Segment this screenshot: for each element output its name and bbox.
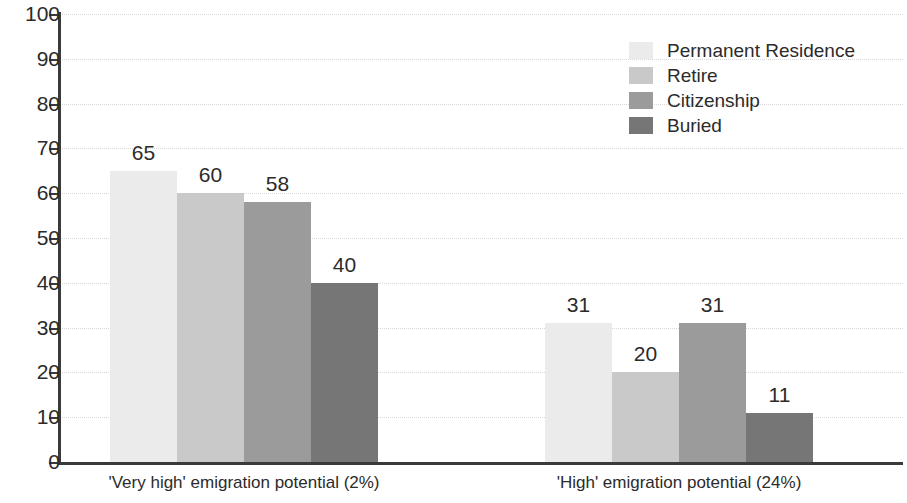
bar-value-label: 11 — [746, 384, 813, 405]
legend-swatch-icon — [629, 117, 653, 134]
legend-label: Buried — [667, 116, 722, 135]
x-axis-line — [58, 462, 903, 465]
legend-swatch-icon — [629, 42, 653, 59]
bar[interactable] — [545, 323, 612, 462]
category-label: 'Very high' emigration potential (2%) — [44, 473, 444, 493]
bar[interactable] — [177, 193, 244, 462]
legend-swatch-icon — [629, 67, 653, 84]
category-label: 'High' emigration potential (24%) — [479, 473, 879, 493]
bar-value-label: 20 — [612, 343, 679, 364]
legend-item[interactable]: Buried — [629, 113, 855, 138]
legend-label: Permanent Residence — [667, 41, 855, 60]
legend-item[interactable]: Permanent Residence — [629, 38, 855, 63]
bar-value-label: 58 — [244, 173, 311, 194]
y-axis-tick-label: 80 — [16, 93, 60, 114]
y-axis-tick-label: 70 — [16, 137, 60, 158]
y-axis-ticks: 1009080706050403020100 — [0, 0, 60, 503]
bar-value-label: 31 — [545, 294, 612, 315]
y-axis-tick-label: 30 — [16, 317, 60, 338]
y-axis-tick-label: 0 — [16, 451, 60, 472]
y-axis-tick-label: 60 — [16, 182, 60, 203]
bar-value-label: 60 — [177, 164, 244, 185]
bar-group: 65605840 — [110, 14, 378, 462]
bar[interactable] — [244, 202, 311, 462]
y-axis-tick-label: 40 — [16, 272, 60, 293]
legend-item[interactable]: Retire — [629, 63, 855, 88]
bar-value-label: 65 — [110, 142, 177, 163]
legend-swatch-icon — [629, 92, 653, 109]
bar[interactable] — [110, 171, 177, 462]
bar[interactable] — [311, 283, 378, 462]
legend-item[interactable]: Citizenship — [629, 88, 855, 113]
bar-value-label: 31 — [679, 294, 746, 315]
bar-chart: 6560584031203111 1009080706050403020100 … — [0, 0, 907, 503]
legend: Permanent ResidenceRetireCitizenshipBuri… — [629, 38, 855, 138]
bar[interactable] — [612, 372, 679, 462]
legend-label: Citizenship — [667, 91, 760, 110]
legend-label: Retire — [667, 66, 718, 85]
y-axis-tick-label: 20 — [16, 361, 60, 382]
bar[interactable] — [679, 323, 746, 462]
y-axis-tick-label: 90 — [16, 48, 60, 69]
y-axis-tick-label: 10 — [16, 406, 60, 427]
bar-value-label: 40 — [311, 254, 378, 275]
bar[interactable] — [746, 413, 813, 462]
y-axis-tick-label: 100 — [16, 3, 60, 24]
y-axis-tick-label: 50 — [16, 227, 60, 248]
